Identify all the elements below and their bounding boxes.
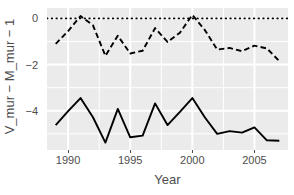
x-tick-label: 2005: [242, 154, 266, 166]
x-tick-mark: [254, 150, 255, 153]
x-tick-mark: [68, 150, 69, 153]
solid-series: [56, 98, 280, 143]
x-tick-mark: [192, 150, 193, 153]
x-tick-label: 2000: [180, 154, 204, 166]
plot-series-svg: [47, 8, 288, 150]
dashed-series: [56, 15, 280, 61]
x-tick-label: 1995: [118, 154, 142, 166]
x-axis-title: Year: [47, 172, 288, 187]
x-tick-label: 1990: [56, 154, 80, 166]
plot-panel: [47, 8, 288, 150]
data-series-group: [56, 15, 280, 143]
chart-container: V_mur − M_mur − 1 0−2−4 1990199520002005…: [0, 0, 294, 195]
x-tick-mark: [130, 150, 131, 153]
